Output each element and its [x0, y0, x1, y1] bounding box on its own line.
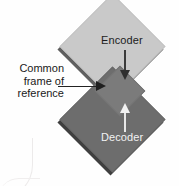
- diagram-canvas: Encoder Decoder Common frame of referenc…: [0, 0, 179, 186]
- callout-line-1: Common: [4, 62, 64, 75]
- scan-artifact-secondary: [0, 178, 40, 186]
- scan-artifact: [0, 138, 33, 186]
- encoder-to-common-arrow-icon: [124, 50, 126, 80]
- arrow-shaft: [124, 50, 126, 72]
- arrow-shaft: [124, 111, 126, 132]
- common-frame-callout-label: Common frame of reference: [4, 62, 64, 100]
- arrow-head: [120, 103, 130, 113]
- callout-arrow-head-icon: [96, 81, 106, 91]
- callout-line-3: reference: [4, 87, 64, 100]
- arrow-head: [120, 70, 130, 80]
- encoder-label: Encoder: [101, 35, 143, 46]
- callout-line-2: frame of: [4, 75, 64, 88]
- decoder-label: Decoder: [101, 132, 143, 143]
- callout-leader-line: [58, 86, 98, 87]
- decoder-to-common-arrow-icon: [124, 103, 126, 131]
